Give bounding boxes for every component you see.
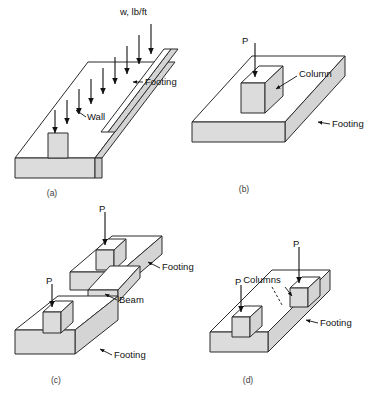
panel-a-footing-right-end <box>95 158 102 178</box>
panel-c-footing-lower-label: Footing <box>114 349 146 360</box>
panel-d-caption: (d) <box>243 375 254 385</box>
panel-c-beam-label: Beam <box>119 294 144 305</box>
panel-b-footing-label: Footing <box>332 118 364 129</box>
panel-d-load-label-upper: P <box>293 238 299 249</box>
panel-d-column-lower-front <box>232 317 250 337</box>
panel-b-caption: (b) <box>239 184 250 194</box>
panel-c-footing-lower-front <box>15 330 75 354</box>
panel-c-column-lower-front <box>43 312 61 333</box>
panel-a-footing-label: Footing <box>145 76 177 87</box>
panel-a-wall-front <box>48 133 68 158</box>
panel-c-load-label-lower: P <box>46 275 52 286</box>
panel-c-load-label-upper: P <box>99 203 105 214</box>
panel-c-caption: (c) <box>51 375 61 385</box>
panel-d-footing-label: Footing <box>320 317 352 328</box>
panel-d-column-upper-front <box>290 288 308 307</box>
panel-a-footing-front <box>15 158 95 178</box>
footing-types-figure: w, lb/ft Wall Footing (a) P Column Footi… <box>0 0 370 402</box>
panel-a-caption: (a) <box>47 188 58 198</box>
panel-b-footing-front <box>192 122 285 142</box>
panel-a-wall-label: Wall <box>87 111 105 122</box>
panel-a-load-label: w, lb/ft <box>119 6 147 17</box>
panel-b-column-front <box>241 83 265 113</box>
panel-b-column-label: Column <box>299 68 332 79</box>
panel-b-load-label: P <box>242 35 248 46</box>
panel-d-columns-label: Columns <box>243 274 281 285</box>
panel-d-load-label-lower: P <box>235 276 241 287</box>
panel-c-footing-upper-label: Footing <box>162 261 194 272</box>
